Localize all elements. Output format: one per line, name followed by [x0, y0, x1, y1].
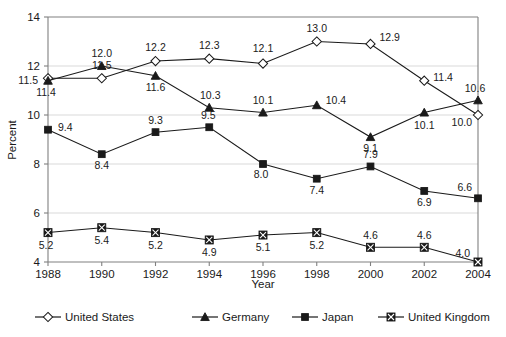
- legend-item-germany[interactable]: Germany: [192, 311, 270, 323]
- data-point-marker: [205, 54, 214, 63]
- line-chart: 468101214 198819901992199419961998200020…: [0, 0, 506, 337]
- data-value-label: 5.2: [148, 239, 163, 251]
- x-tick-label: 1994: [196, 268, 222, 280]
- data-value-label: 10.3: [200, 89, 221, 101]
- data-point-marker: [259, 231, 267, 239]
- legend-item-japan[interactable]: Japan: [292, 311, 353, 323]
- data-value-label: 5.2: [309, 239, 324, 251]
- data-value-label: 4.6: [417, 229, 432, 241]
- data-point-marker: [206, 124, 213, 131]
- data-value-label: 12.0: [92, 47, 113, 59]
- data-point-marker: [205, 236, 213, 244]
- data-point-marker: [473, 110, 482, 119]
- series-japan: [45, 124, 482, 202]
- data-point-marker: [367, 163, 374, 170]
- data-value-label: 12.3: [199, 39, 220, 51]
- data-value-label: 10.1: [414, 119, 435, 131]
- x-tick-label: 1990: [89, 268, 115, 280]
- data-point-marker: [258, 59, 267, 68]
- data-value-label: 11.5: [92, 59, 112, 71]
- data-value-label: 11.5: [18, 74, 38, 86]
- x-tick-label: 2002: [411, 268, 437, 280]
- y-tick-label: 12: [27, 60, 40, 72]
- legend-item-united-kingdom[interactable]: United Kingdom: [378, 311, 490, 323]
- legend-label: United Kingdom: [408, 311, 490, 323]
- y-axis-tick-labels: 468101214: [27, 11, 40, 268]
- data-value-label: 12.2: [145, 41, 166, 53]
- legend-item-united-states[interactable]: United States: [35, 311, 134, 323]
- legend-label: Germany: [222, 311, 270, 323]
- data-point-marker: [367, 243, 375, 251]
- data-value-label: 13.0: [307, 22, 328, 34]
- x-tick-label: 2004: [465, 268, 491, 280]
- data-value-label: 12.1: [253, 42, 274, 54]
- y-tick-label: 6: [34, 207, 40, 219]
- data-point-marker: [421, 188, 428, 195]
- data-point-marker: [152, 229, 160, 237]
- data-point-marker: [313, 175, 320, 182]
- data-point-marker: [151, 57, 160, 66]
- data-point-marker: [260, 161, 267, 168]
- data-point-marker: [152, 129, 159, 136]
- data-point-marker: [474, 96, 483, 104]
- data-value-label: 10.4: [326, 94, 347, 106]
- chart-legend: United StatesGermanyJapanUnited Kingdom: [35, 311, 490, 323]
- data-value-label: 6.9: [417, 196, 432, 208]
- data-value-label: 8.0: [254, 168, 269, 180]
- data-value-label: 10.0: [452, 116, 473, 128]
- x-tick-label: 1988: [35, 268, 61, 280]
- data-value-label: 11.4: [433, 71, 453, 83]
- y-tick-label: 8: [34, 158, 40, 170]
- data-point-marker: [44, 229, 52, 237]
- data-value-label: 5.4: [94, 234, 109, 246]
- data-value-label: 11.4: [36, 86, 56, 98]
- data-value-label: 4.0: [455, 247, 470, 259]
- x-tick-label: 2000: [358, 268, 384, 280]
- data-point-marker: [302, 314, 309, 321]
- data-point-marker: [98, 151, 105, 158]
- data-value-label: 10.1: [253, 94, 274, 106]
- data-point-marker: [366, 133, 375, 141]
- data-point-marker: [98, 224, 106, 232]
- y-tick-label: 4: [34, 256, 41, 268]
- y-axis-title: Percent: [6, 119, 18, 159]
- data-value-label: 4.6: [363, 229, 378, 241]
- y-tick-label: 10: [27, 109, 40, 121]
- data-value-label: 9.5: [201, 109, 216, 121]
- data-point-marker: [387, 313, 395, 321]
- data-point-marker: [313, 229, 321, 237]
- data-point-marker: [474, 258, 482, 266]
- data-point-marker: [366, 39, 375, 48]
- gridlines: [48, 66, 478, 213]
- data-value-label: 5.1: [256, 241, 271, 253]
- data-value-label: 11.6: [146, 81, 166, 93]
- data-point-marker: [43, 312, 52, 321]
- x-tick-label: 1992: [143, 268, 169, 280]
- data-value-label: 10.6: [465, 82, 486, 94]
- data-point-marker: [45, 126, 52, 133]
- y-tick-label: 14: [27, 11, 40, 23]
- data-value-label: 5.2: [39, 239, 54, 251]
- legend-label: Japan: [322, 311, 353, 323]
- data-value-label: 7.9: [363, 148, 378, 160]
- data-value-label: 12.9: [380, 31, 401, 43]
- data-value-label: 9.3: [148, 114, 163, 126]
- x-tick-label: 1998: [304, 268, 330, 280]
- data-point-marker: [420, 243, 428, 251]
- data-value-label: 8.4: [94, 159, 109, 171]
- plot-frame: [48, 17, 478, 262]
- data-value-label: 6.6: [457, 181, 472, 193]
- data-point-marker: [312, 101, 321, 109]
- data-value-label: 4.9: [202, 246, 217, 258]
- data-point-marker: [420, 76, 429, 85]
- data-point-marker: [97, 74, 106, 83]
- data-value-label: 9.4: [58, 121, 73, 133]
- data-point-marker: [312, 37, 321, 46]
- data-point-marker: [475, 195, 482, 202]
- chart-container: 468101214 198819901992199419961998200020…: [0, 0, 506, 337]
- legend-label: United States: [65, 311, 134, 323]
- data-value-labels: 11.511.512.212.312.113.012.911.410.011.4…: [18, 22, 485, 260]
- x-axis-title: Year: [251, 278, 274, 290]
- data-value-label: 7.4: [309, 184, 324, 196]
